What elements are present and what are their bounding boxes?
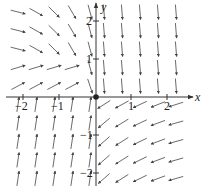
- x-tick-label: −1: [51, 99, 64, 113]
- field-arrow: [17, 171, 19, 186]
- field-arrow: [157, 60, 158, 75]
- field-arrow: [139, 60, 140, 75]
- field-arrow: [35, 97, 37, 112]
- field-arrow: [133, 175, 146, 182]
- field-arrow: [133, 157, 146, 164]
- y-tick-label: 1: [86, 52, 92, 66]
- field-arrow: [121, 79, 122, 94]
- field-arrow: [175, 23, 176, 38]
- field-arrow: [35, 153, 37, 168]
- field-arrow: [68, 24, 76, 37]
- field-arrow: [139, 23, 140, 38]
- field-arrow: [65, 83, 78, 90]
- field-arrow: [103, 23, 104, 38]
- y-tick-label: −2: [80, 166, 93, 180]
- x-axis-label: x: [194, 90, 201, 104]
- field-arrow: [11, 65, 25, 69]
- field-arrow: [169, 176, 183, 180]
- field-arrow: [29, 8, 42, 15]
- field-arrow: [29, 45, 42, 52]
- field-arrow: [47, 65, 61, 69]
- field-arrow: [71, 171, 73, 186]
- field-arrow: [151, 102, 165, 107]
- field-arrow: [35, 116, 37, 131]
- field-arrow: [175, 60, 176, 75]
- equilibrium-point: [93, 94, 99, 100]
- field-arrow: [175, 42, 176, 57]
- field-arrow: [157, 42, 158, 57]
- field-arrow: [139, 79, 140, 94]
- field-arrow: [116, 156, 129, 164]
- field-arrow: [11, 29, 26, 33]
- field-arrow: [103, 60, 104, 75]
- field-arrow: [157, 23, 158, 38]
- field-arrow: [157, 79, 158, 94]
- field-arrow: [53, 116, 55, 131]
- direction-field-plot: −2−11221−1−2xy: [0, 0, 201, 191]
- field-arrow: [35, 134, 37, 149]
- field-arrow: [151, 120, 165, 125]
- field-arrow: [17, 153, 19, 168]
- field-arrow: [89, 97, 91, 112]
- field-arrow: [139, 5, 140, 20]
- field-arrow: [11, 10, 26, 14]
- field-arrow: [68, 43, 76, 56]
- field-arrow: [139, 42, 140, 57]
- field-arrow: [71, 97, 73, 112]
- field-arrow: [47, 83, 60, 90]
- field-arrow: [98, 174, 109, 184]
- field-arrow: [49, 44, 60, 55]
- field-arrow: [49, 25, 60, 36]
- field-arrow: [29, 65, 43, 69]
- field-arrow: [11, 47, 26, 51]
- field-arrow: [169, 121, 183, 125]
- field-arrow: [17, 116, 19, 131]
- field-arrow: [121, 60, 122, 75]
- field-arrow: [35, 171, 37, 186]
- field-arrow: [151, 176, 165, 181]
- field-arrow: [116, 174, 129, 182]
- field-arrow: [175, 5, 176, 20]
- field-arrow: [169, 158, 183, 162]
- x-tick-label: 1: [128, 99, 134, 113]
- field-arrow: [49, 7, 60, 18]
- field-arrow: [175, 79, 176, 94]
- field-arrow: [98, 100, 111, 108]
- field-arrow: [151, 139, 165, 144]
- field-arrow: [71, 134, 73, 149]
- field-arrow: [121, 5, 122, 20]
- field-arrow: [133, 120, 147, 126]
- field-arrow: [88, 79, 93, 93]
- y-axis-label: y: [100, 0, 107, 14]
- field-arrow: [53, 153, 55, 168]
- field-arrow: [121, 42, 122, 57]
- y-tick-label: −1: [80, 128, 93, 142]
- field-arrow: [103, 79, 104, 94]
- field-arrow: [121, 23, 122, 38]
- field-arrow: [157, 5, 158, 20]
- field-arrow: [133, 101, 147, 107]
- field-arrow: [17, 134, 19, 149]
- field-arrow: [98, 137, 109, 147]
- field-arrow: [68, 6, 76, 19]
- field-arrow: [98, 118, 110, 128]
- field-arrow: [65, 65, 79, 69]
- x-tick-label: 2: [164, 99, 170, 113]
- tick-labels: −2−11221−1−2xy: [15, 0, 201, 180]
- field-arrow: [71, 153, 73, 168]
- axes: [6, 3, 193, 186]
- y-tick-label: 2: [86, 14, 92, 28]
- field-arrow: [169, 139, 183, 143]
- field-arrow: [103, 42, 104, 57]
- field-arrow: [115, 101, 128, 108]
- field-arrow: [11, 83, 24, 90]
- field-arrow: [29, 83, 42, 90]
- x-tick-label: −2: [15, 99, 28, 113]
- field-arrow: [116, 119, 129, 127]
- field-arrow: [98, 155, 109, 165]
- field-arrow: [116, 137, 129, 145]
- field-arrow: [71, 116, 73, 131]
- field-arrow: [29, 27, 42, 34]
- field-arrow: [133, 138, 146, 145]
- field-arrow: [151, 157, 165, 162]
